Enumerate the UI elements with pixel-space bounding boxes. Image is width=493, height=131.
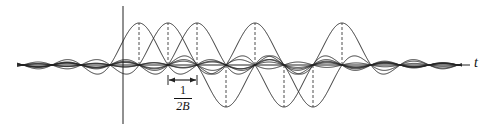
spacing-label: 1 2B xyxy=(168,84,198,113)
time-axis-label: t xyxy=(474,55,478,71)
spacing-denominator: 2B xyxy=(168,100,198,113)
sinc-pulse-3 xyxy=(17,23,462,74)
spacing-numerator: 1 xyxy=(168,84,198,97)
sinc-pulse-diagram xyxy=(0,0,493,131)
